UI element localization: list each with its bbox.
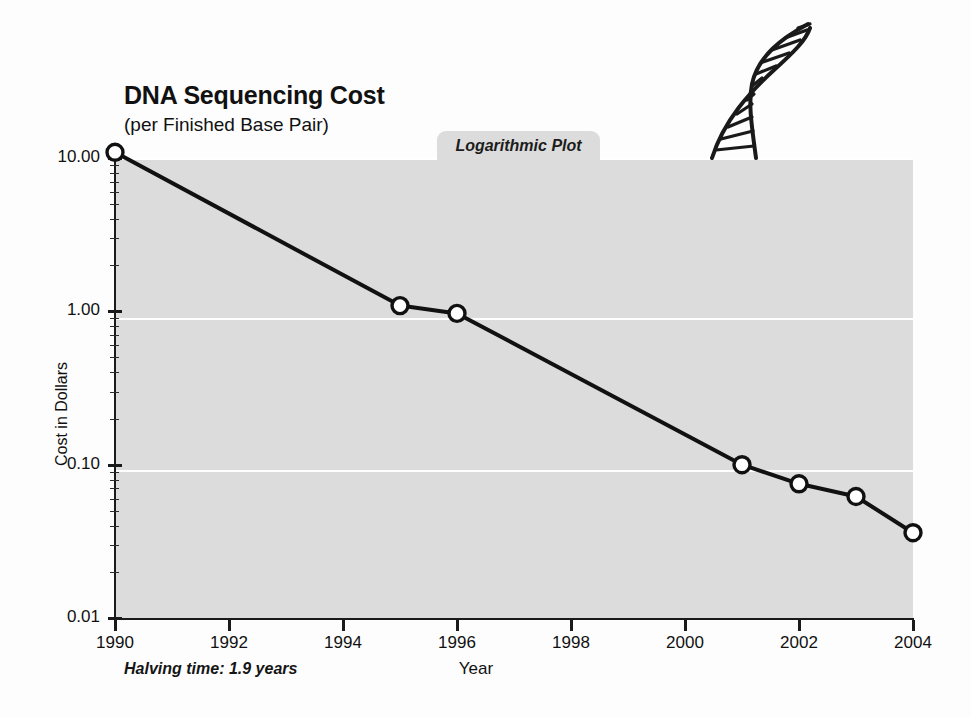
y-tick-minor: [110, 419, 119, 420]
y-tick-minor: [110, 472, 119, 473]
y-tick-minor: [110, 219, 119, 220]
y-tick-minor: [110, 480, 119, 481]
y-tick-label: 10.00: [57, 147, 100, 167]
x-axis-title: Year: [416, 659, 536, 679]
chart-subtitle: (per Finished Base Pair): [124, 114, 644, 136]
y-tick-minor: [110, 192, 119, 193]
x-tick: [228, 620, 231, 631]
x-tick-label: 1996: [422, 633, 492, 653]
y-tick-major: [108, 157, 122, 160]
x-tick: [114, 620, 117, 631]
y-tick-minor: [110, 357, 119, 358]
plot-type-tab[interactable]: Logarithmic Plot: [437, 131, 600, 161]
y-tick-minor: [110, 265, 119, 266]
x-tick-label: 2002: [764, 633, 834, 653]
dna-helix-icon: [690, 0, 890, 160]
y-tick-minor: [110, 545, 119, 546]
x-tick-label: 1992: [194, 633, 264, 653]
y-tick-minor: [110, 499, 119, 500]
gridline-1: [115, 318, 913, 320]
plot-type-tab-label: Logarithmic Plot: [437, 137, 600, 155]
title-block: DNA Sequencing Cost (per Finished Base P…: [124, 82, 644, 135]
x-tick-label: 2004: [878, 633, 948, 653]
y-tick-label: 0.01: [67, 607, 100, 627]
x-tick: [798, 620, 801, 631]
chart-canvas: Logarithmic Plot DNA Sequencing Cost (pe…: [0, 0, 971, 717]
y-tick-minor: [110, 392, 119, 393]
y-tick-minor: [110, 182, 119, 183]
y-tick-minor: [110, 572, 119, 573]
x-tick: [570, 620, 573, 631]
y-tick-minor: [110, 511, 119, 512]
y-tick-minor: [110, 238, 119, 239]
y-tick-label: 1.00: [67, 300, 100, 320]
y-tick-minor: [110, 335, 119, 336]
gridline-0.1: [115, 470, 913, 472]
plot-area: [115, 158, 913, 618]
y-tick-minor: [110, 204, 119, 205]
x-tick-label: 2000: [650, 633, 720, 653]
x-tick-label: 1990: [80, 633, 150, 653]
x-tick: [342, 620, 345, 631]
x-tick: [456, 620, 459, 631]
y-axis-title: Cost in Dollars: [53, 334, 71, 494]
y-tick-minor: [110, 488, 119, 489]
y-tick-minor: [110, 372, 119, 373]
y-tick-minor: [110, 165, 119, 166]
x-tick: [684, 620, 687, 631]
y-tick-major: [108, 464, 122, 467]
y-tick-minor: [110, 345, 119, 346]
x-tick-label: 1994: [308, 633, 378, 653]
y-tick-minor: [110, 173, 119, 174]
y-tick-minor: [110, 526, 119, 527]
y-tick-minor: [110, 326, 119, 327]
y-tick-major: [108, 310, 122, 313]
x-tick-label: 1998: [536, 633, 606, 653]
page-title: DNA Sequencing Cost: [124, 82, 644, 110]
y-tick-minor: [110, 318, 119, 319]
halving-time-annotation: Halving time: 1.9 years: [124, 660, 297, 678]
y-axis-line: [114, 158, 116, 620]
x-tick: [912, 620, 915, 631]
y-tick-label: 0.10: [67, 454, 100, 474]
x-axis-line: [114, 618, 914, 620]
